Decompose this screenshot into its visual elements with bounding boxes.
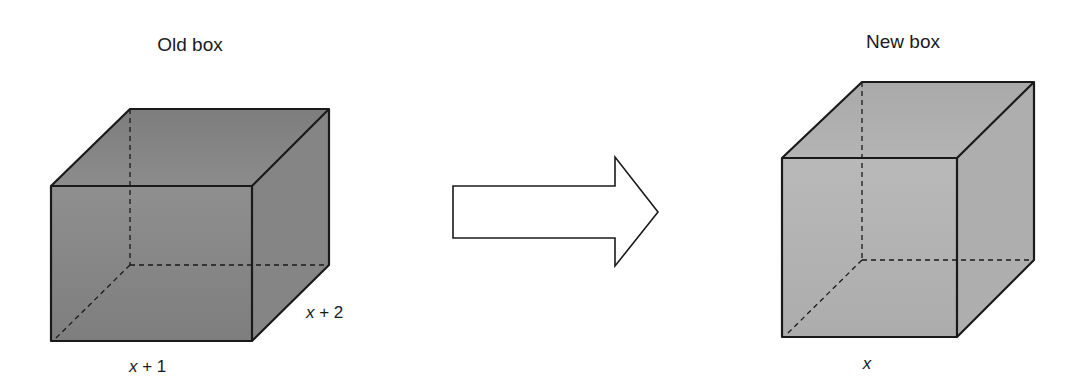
old-box-title: Old box: [157, 34, 223, 55]
old-box-width-label: x + 1: [128, 357, 166, 376]
new-box-title: New box: [866, 31, 940, 52]
right-arrow-icon: [453, 157, 658, 266]
new-box-width-label: x: [862, 354, 872, 373]
new-box: New box x: [782, 31, 1034, 373]
box-comparison-diagram: Old box x + 2 x + 1 New box: [0, 0, 1088, 389]
old-box-front-face: [51, 186, 252, 341]
old-box-depth-label: x + 2: [305, 303, 343, 322]
new-box-front-face: [782, 158, 957, 337]
old-box: Old box x + 2 x + 1: [51, 34, 343, 376]
